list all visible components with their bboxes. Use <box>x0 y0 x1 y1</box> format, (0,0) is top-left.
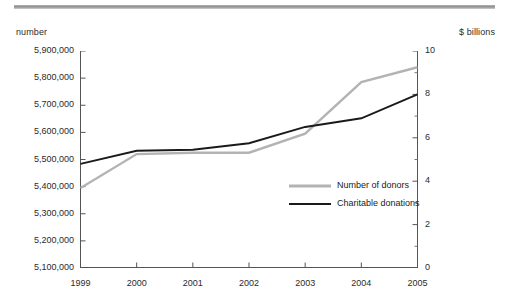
x-axis-ticks <box>81 263 418 268</box>
legend-swatches <box>287 180 335 214</box>
axis-lines <box>80 51 418 268</box>
x-axis-tick-label: 2001 <box>173 278 213 288</box>
right-axis-tick-label: 2 <box>425 219 430 229</box>
left-axis-tick-label: 5,400,000 <box>6 181 74 191</box>
x-axis-tick-label: 2003 <box>285 278 325 288</box>
left-axis-unit-label: number <box>16 27 47 37</box>
legend-entry-label: Number of donors <box>337 180 409 190</box>
right-axis-tick-label: 10 <box>425 45 435 55</box>
plot-area <box>80 51 418 268</box>
x-axis-tick-label: 2000 <box>117 278 157 288</box>
right-axis-ticks <box>413 51 418 268</box>
right-axis-tick-label: 8 <box>425 88 430 98</box>
x-axis-tick-label: 1999 <box>61 278 101 288</box>
right-axis-tick-label: 0 <box>425 262 430 272</box>
right-axis-tick-label: 6 <box>425 132 430 142</box>
chart-figure: number $ billions 5,100,0005,200,0005,30… <box>0 0 509 306</box>
series-lines <box>81 67 418 188</box>
right-axis-tick-label: 4 <box>425 175 430 185</box>
chart-plot-svg <box>80 51 418 268</box>
left-axis-tick-label: 5,300,000 <box>6 208 74 218</box>
header-divider-rule <box>14 5 495 9</box>
left-axis-tick-label: 5,800,000 <box>6 72 74 82</box>
left-axis-tick-label: 5,900,000 <box>6 45 74 55</box>
x-axis-tick-label: 2005 <box>398 278 438 288</box>
left-axis-tick-label: 5,200,000 <box>6 235 74 245</box>
x-axis-tick-label: 2004 <box>341 278 381 288</box>
left-axis-ticks <box>81 51 86 268</box>
left-axis-tick-label: 5,700,000 <box>6 99 74 109</box>
legend-entry-label: Charitable donations <box>337 198 420 208</box>
series-line <box>81 67 418 188</box>
x-axis-tick-label: 2002 <box>229 278 269 288</box>
left-axis-tick-label: 5,600,000 <box>6 126 74 136</box>
right-axis-unit-label: $ billions <box>459 27 495 37</box>
left-axis-tick-label: 5,100,000 <box>6 262 74 272</box>
left-axis-tick-label: 5,500,000 <box>6 154 74 164</box>
